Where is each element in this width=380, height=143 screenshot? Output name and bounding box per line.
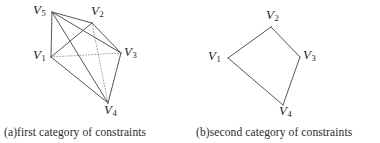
graph-edge-V1-V2 — [228, 27, 271, 58]
panel-a-caption: (a)first category of constraints — [0, 125, 194, 139]
vertex-label-v2: V2 — [91, 4, 104, 18]
vertex-label-v4: V4 — [104, 103, 117, 117]
graph-edge-V5-V3 — [52, 12, 121, 53]
graph-edge-V1-V3 — [51, 53, 121, 57]
vertex-letter: V — [124, 44, 132, 59]
vertex-subscript: 5 — [41, 8, 46, 18]
vertex-letter: V — [266, 7, 274, 22]
graph-edge-V5-V1 — [51, 12, 52, 57]
graph-edge-V3-V4 — [108, 53, 121, 103]
vertex-subscript: 3 — [311, 53, 316, 63]
vertex-letter: V — [279, 103, 287, 118]
vertex-subscript: 2 — [99, 9, 104, 19]
vertex-subscript: 4 — [112, 108, 117, 118]
vertex-subscript: 2 — [274, 13, 279, 23]
vertex-subscript: 4 — [287, 109, 292, 119]
vertex-letter: V — [208, 48, 216, 63]
vertex-subscript: 3 — [132, 50, 137, 60]
vertex-letter: V — [33, 47, 41, 62]
graph-edge-V2-V4 — [92, 23, 108, 103]
vertex-label-v3: V3 — [124, 45, 137, 59]
graph-edge-V2-V3 — [271, 27, 300, 57]
figure-root: V1V2V3V4V5 (a)first category of constrai… — [0, 0, 380, 143]
vertex-subscript: 1 — [216, 54, 221, 64]
vertex-letter: V — [91, 3, 99, 18]
graph-edge-V1-V4 — [51, 57, 108, 103]
panel-b-caption: (b)second category of constraints — [190, 125, 380, 139]
vertex-letter: V — [33, 2, 41, 17]
vertex-label-v1: V1 — [33, 48, 46, 62]
graph-edge-V4-V1 — [228, 58, 283, 105]
graph-edge-V3-V4 — [283, 57, 300, 105]
graph-edge-V5-V4 — [52, 12, 108, 103]
vertex-label-v3: V3 — [303, 48, 316, 62]
vertex-label-v5: V5 — [33, 3, 46, 17]
graph-edge-V1-V2 — [51, 23, 92, 57]
vertex-label-v4: V4 — [279, 104, 292, 118]
figure-panel-b: V1V2V3V4 (b)second category of constrain… — [190, 0, 380, 143]
vertex-label-v1: V1 — [208, 49, 221, 63]
vertex-label-v2: V2 — [266, 8, 279, 22]
figure-panel-a: V1V2V3V4V5 (a)first category of constrai… — [0, 0, 190, 143]
vertex-subscript: 1 — [41, 53, 46, 63]
vertex-letter: V — [303, 47, 311, 62]
vertex-letter: V — [104, 102, 112, 117]
